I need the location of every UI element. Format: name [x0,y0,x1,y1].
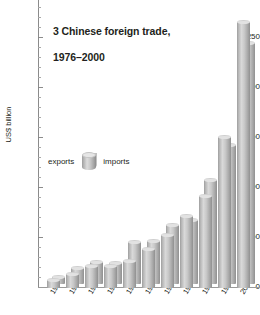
y-axis-label: US$ billion [4,90,13,160]
bar-cap [218,135,231,139]
bar-exports [66,274,79,288]
bar-cap [104,264,117,268]
legend-label-exports: exports [48,157,74,166]
bar-cap [166,223,179,227]
bar-exports [142,249,155,288]
bar-exports [237,22,250,288]
bar-cap [237,20,250,24]
bar-group [142,0,162,288]
bar-exports [180,216,193,288]
bar-cap [47,278,60,282]
bar-cap [71,266,84,270]
bar-cap [142,247,155,251]
bar-cap [161,233,174,237]
bar-group [218,0,238,288]
bar-cap [66,272,79,276]
bar-group [180,0,200,288]
bar-exports [104,266,117,288]
bar-cap [147,239,160,243]
bar-group [47,0,67,288]
bar-group [123,0,143,288]
bar-exports [47,280,60,288]
bar-exports [161,235,174,288]
cylinder-swatch-icon [80,152,97,171]
bar-group [66,0,86,288]
bar-cap [199,194,212,198]
bar-exports [218,137,231,288]
bar-cap [85,264,98,268]
bar-group [237,0,257,288]
chart-legend: exports imports [48,152,129,171]
bar-group [85,0,105,288]
bar-exports [123,261,136,288]
legend-label-imports: imports [103,157,129,166]
bar-group [161,0,181,288]
bar-cap [123,259,136,263]
bar-exports [199,196,212,288]
bar-exports [85,266,98,288]
bar-cap [180,214,193,218]
bar-cap [204,178,217,182]
plot-area [39,0,260,288]
bar-group [104,0,124,288]
chart-figure: 3 Chinese foreign trade, 1976–2000 US$ b… [0,0,260,315]
bar-group [199,0,219,288]
bar-cap [128,240,141,244]
